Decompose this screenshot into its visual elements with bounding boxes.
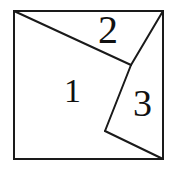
figure-container: 1 2 3 [0, 0, 173, 172]
region-label-1: 1 [64, 74, 81, 108]
region-label-3: 3 [133, 84, 152, 122]
region-label-2: 2 [98, 10, 118, 50]
